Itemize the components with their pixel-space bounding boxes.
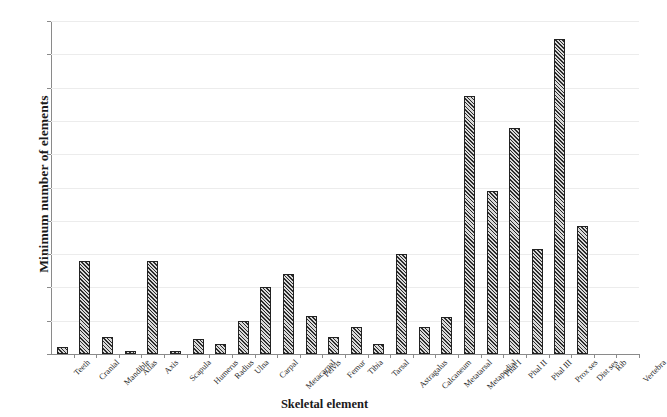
gridline <box>51 154 639 155</box>
bar <box>441 317 452 354</box>
bar <box>577 226 588 354</box>
x-tick-label: Phal III <box>550 358 574 382</box>
x-tick-label: Ulna <box>253 358 271 376</box>
x-tick-label: Femur <box>345 358 367 380</box>
x-tick-label: Pelvis <box>322 358 343 379</box>
x-tick-label: Phal II <box>526 358 548 380</box>
bar <box>464 96 475 354</box>
y-tick-mark <box>47 121 51 122</box>
bar <box>351 327 362 354</box>
bar <box>509 128 520 354</box>
x-tick-label: Tarsal <box>390 358 411 379</box>
gridline <box>51 54 639 55</box>
y-tick-mark <box>47 321 51 322</box>
plot-area <box>51 21 639 354</box>
bar <box>373 344 384 354</box>
x-tick-label: Scapula <box>188 358 213 383</box>
x-tick-label: Prox ses <box>573 358 599 384</box>
bar <box>238 321 249 354</box>
bar <box>328 337 339 354</box>
gridline <box>51 121 639 122</box>
x-tick-label: Tibia <box>366 358 385 377</box>
bar <box>283 274 294 354</box>
x-tick-label: Dist ses <box>595 358 620 383</box>
gridline <box>51 254 639 255</box>
bar <box>170 351 181 354</box>
gridline <box>51 287 639 288</box>
bar <box>532 249 543 354</box>
gridline <box>51 21 639 22</box>
x-tick-label: Cranial <box>97 358 121 382</box>
bar <box>147 261 158 354</box>
y-tick-mark <box>47 154 51 155</box>
y-tick-mark <box>47 254 51 255</box>
y-tick-mark <box>47 54 51 55</box>
y-tick-mark <box>47 221 51 222</box>
bar <box>193 339 204 354</box>
x-axis-title: Skeletal element <box>0 397 649 412</box>
x-tick-label: Carpal <box>277 358 299 380</box>
bar <box>57 347 68 354</box>
bar <box>260 287 271 354</box>
bar <box>419 327 430 354</box>
x-tick-label: Teeth <box>73 358 92 377</box>
y-axis-title: Minimum number of elements <box>36 54 52 314</box>
gridline <box>51 321 639 322</box>
y-tick-mark <box>47 88 51 89</box>
x-tick-mark <box>639 354 640 358</box>
x-tick-label: Axis <box>162 358 180 376</box>
x-tick-label: Phal I <box>503 358 523 378</box>
gridline <box>51 188 639 189</box>
bar <box>79 261 90 354</box>
bar <box>306 316 317 354</box>
gridline <box>51 221 639 222</box>
bar <box>396 254 407 354</box>
x-tick-label: Vertebra <box>641 358 667 384</box>
bar <box>125 351 136 354</box>
bar <box>215 344 226 354</box>
y-tick-mark <box>47 21 51 22</box>
bar <box>554 39 565 354</box>
y-tick-mark <box>47 287 51 288</box>
y-tick-mark <box>47 188 51 189</box>
bar <box>487 191 498 354</box>
bar <box>102 337 113 354</box>
y-tick-mark <box>47 354 51 355</box>
gridline <box>51 88 639 89</box>
